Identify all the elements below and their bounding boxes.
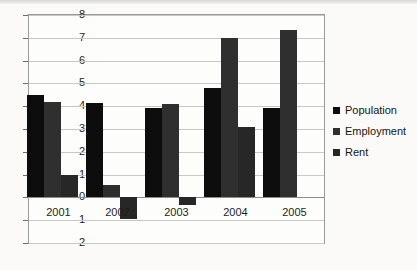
legend-swatch-icon xyxy=(333,149,340,156)
x-tick-label-2003: 2003 xyxy=(147,207,206,218)
y-tick-mark xyxy=(23,243,28,244)
y-tick-mark xyxy=(23,83,28,84)
bar-employment-2005 xyxy=(280,30,297,198)
y-tick-mark xyxy=(23,220,28,221)
bar-population-2004 xyxy=(204,88,221,197)
bar-employment-2004 xyxy=(221,38,238,198)
legend-item-rent[interactable]: Rent xyxy=(333,142,417,163)
bar-rent-2001 xyxy=(61,175,78,198)
bar-population-2005 xyxy=(263,108,280,197)
bar-employment-2003 xyxy=(162,104,179,197)
legend-swatch-icon xyxy=(333,128,340,135)
legend-item-population[interactable]: Population xyxy=(333,100,417,121)
legend-swatch-icon xyxy=(333,107,340,114)
legend-label: Rent xyxy=(345,147,368,158)
gridline-neg2 xyxy=(29,243,324,244)
bar-rent-2004 xyxy=(238,127,255,198)
bar-chart: 876543210-1-2 20012002200320042005 Popul… xyxy=(0,0,417,270)
bar-employment-2002 xyxy=(103,185,120,198)
y-tick-mark xyxy=(23,197,28,198)
x-tick-label-2001: 2001 xyxy=(29,207,88,218)
legend-label: Employment xyxy=(345,126,406,137)
chart-legend: PopulationEmploymentRent xyxy=(333,100,417,163)
legend-label: Population xyxy=(345,105,397,116)
bar-population-2001 xyxy=(27,95,44,198)
x-tick-label-2004: 2004 xyxy=(206,207,265,218)
x-tick-label-2002: 2002 xyxy=(88,207,147,218)
bar-population-2003 xyxy=(145,108,162,197)
bar-employment-2001 xyxy=(44,102,61,198)
bar-population-2002 xyxy=(86,103,103,198)
bar-rent-2003 xyxy=(179,197,196,205)
x-tick-label-2005: 2005 xyxy=(265,207,324,218)
y-tick-mark xyxy=(23,15,28,16)
y-tick-mark xyxy=(23,61,28,62)
legend-item-employment[interactable]: Employment xyxy=(333,121,417,142)
scan-edge-band xyxy=(0,0,417,4)
y-tick-mark xyxy=(23,38,28,39)
